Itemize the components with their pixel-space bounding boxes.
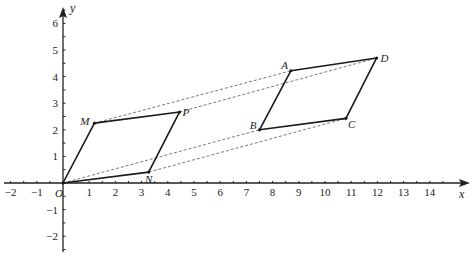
diagram-canvas: −2−11234567891011121314−2−1123456xy OMPN…	[0, 0, 473, 261]
point-label-N: N	[144, 173, 153, 185]
point-label-P: P	[182, 106, 190, 118]
vertex-point-D	[375, 56, 378, 59]
vertex-point-O	[61, 181, 64, 184]
y-tick-label: 3	[53, 97, 59, 109]
x-tick-label: −1	[31, 186, 43, 198]
x-tick-label: 6	[217, 186, 223, 198]
x-tick-label: −2	[5, 186, 17, 198]
vertex-point-A	[289, 69, 292, 72]
y-tick-label: −1	[46, 204, 58, 216]
vertex-point-P	[178, 110, 181, 113]
translation-line-M-A	[94, 71, 291, 123]
x-tick-label: 1	[86, 186, 92, 198]
point-label-C: C	[348, 118, 356, 130]
coordinate-plane: −2−11234567891011121314−2−1123456xy OMPN…	[0, 0, 473, 261]
x-tick-label: 11	[346, 186, 357, 198]
translation-line-O-B	[63, 130, 260, 183]
x-tick-label: 4	[165, 186, 171, 198]
parallelograms	[61, 56, 378, 184]
x-tick-label: 14	[424, 186, 436, 198]
x-tick-label: 3	[139, 186, 145, 198]
y-tick-label: 1	[53, 150, 59, 162]
y-tick-label: 4	[53, 71, 59, 83]
x-tick-label: 13	[398, 186, 410, 198]
x-tick-label: 10	[320, 186, 332, 198]
y-tick-label: 5	[53, 44, 59, 56]
y-axis-label: y	[69, 1, 76, 15]
translation-line-N-C	[149, 118, 346, 172]
y-tick-label: 6	[53, 17, 59, 29]
x-tick-label: 2	[113, 186, 119, 198]
point-label-O: O	[55, 187, 63, 199]
axes: −2−11234567891011121314−2−1123456xy	[4, 1, 470, 252]
x-tick-label: 7	[244, 186, 250, 198]
x-tick-label: 5	[191, 186, 197, 198]
y-tick-label: −2	[46, 230, 58, 242]
parallelogram-BADC	[260, 58, 377, 130]
x-tick-label: 8	[270, 186, 276, 198]
vertex-point-M	[93, 122, 96, 125]
point-label-D: D	[380, 52, 389, 64]
y-tick-label: 2	[53, 124, 59, 136]
point-label-A: A	[280, 59, 288, 71]
translation-line-P-D	[180, 58, 377, 112]
x-tick-label: 9	[296, 186, 302, 198]
vertex-point-B	[258, 128, 261, 131]
point-label-M: M	[79, 115, 90, 127]
x-axis-label: x	[458, 187, 465, 201]
x-tick-label: 12	[372, 186, 383, 198]
point-label-B: B	[250, 119, 257, 131]
